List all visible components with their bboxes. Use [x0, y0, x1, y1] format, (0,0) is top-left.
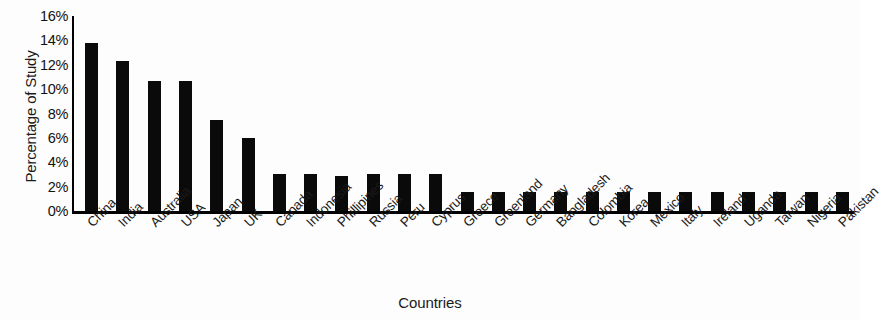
y-axis-tick-label: 12% — [26, 58, 68, 73]
y-axis-tick-label: 2% — [26, 180, 68, 195]
y-axis-tick-label: 6% — [26, 131, 68, 146]
bar — [273, 174, 286, 211]
x-axis-tick-labels: ChinaIndiaAustraliaUSAJapanUKCanadaIndon… — [72, 214, 862, 300]
x-axis-title: Countries — [0, 294, 860, 311]
y-axis-tick-label: 14% — [26, 33, 68, 48]
bar — [116, 61, 129, 211]
bar — [242, 138, 255, 211]
plot-area — [72, 16, 854, 214]
y-axis-tick-label: 4% — [26, 155, 68, 170]
bar — [85, 43, 98, 211]
bar — [210, 120, 223, 211]
y-axis-tick-label: 0% — [26, 204, 68, 219]
bar — [148, 81, 161, 211]
y-axis-tick-label: 16% — [26, 9, 68, 24]
bars-layer — [72, 16, 854, 211]
y-axis-tick-labels: 16%14%12%10%8%6%4%2%0% — [26, 0, 68, 222]
y-axis-tick-label: 10% — [26, 82, 68, 97]
y-axis-tick-label: 8% — [26, 107, 68, 122]
